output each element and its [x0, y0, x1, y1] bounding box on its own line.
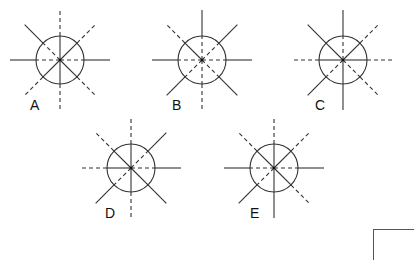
- ray-ne-outer-solid: [219, 25, 237, 43]
- center-dot: [342, 59, 345, 62]
- ray-nw-outer-dashed: [96, 133, 114, 151]
- figure-label: C: [315, 97, 325, 113]
- ray-sw-inner-solid: [43, 60, 60, 77]
- center-dot: [201, 59, 204, 62]
- ray-nw-outer-dashed: [167, 25, 185, 43]
- ray-nw-inner-solid: [185, 43, 202, 60]
- figure-label: A: [30, 97, 40, 113]
- figure-b: B: [152, 10, 252, 113]
- answer-box-corner: [373, 229, 414, 260]
- ray-ne-outer-dashed: [291, 133, 309, 151]
- ray-nw-inner-dashed: [43, 43, 60, 60]
- ray-ne-inner-solid: [274, 151, 291, 168]
- ray-se-outer-solid: [219, 77, 237, 95]
- ray-ne-outer-solid: [148, 133, 166, 151]
- ray-sw-inner-dashed: [257, 168, 274, 185]
- ray-ne-inner-solid: [60, 43, 77, 60]
- figure-a: A: [10, 10, 110, 113]
- ray-se-outer-solid: [148, 185, 166, 203]
- ray-ne-inner-solid: [343, 43, 360, 60]
- figure-label: E: [250, 205, 259, 221]
- ray-sw-inner-dashed: [185, 60, 202, 77]
- center-dot: [59, 59, 62, 62]
- center-dot: [130, 167, 133, 170]
- ray-se-inner-dashed: [202, 60, 219, 77]
- center-dot: [273, 167, 276, 170]
- ray-se-inner-solid: [274, 168, 291, 185]
- ray-ne-inner-dashed: [202, 43, 219, 60]
- ray-ne-outer-dashed: [360, 25, 378, 43]
- figure-c: C: [293, 10, 393, 113]
- ray-se-outer-dashed: [77, 77, 95, 95]
- ray-nw-inner-solid: [114, 151, 131, 168]
- ray-sw-outer-solid: [167, 77, 185, 95]
- ray-nw-inner-solid: [326, 43, 343, 60]
- figure-label: B: [172, 97, 181, 113]
- ray-se-inner-solid: [131, 168, 148, 185]
- figure-d: D: [81, 118, 181, 221]
- ray-nw-outer-dashed: [239, 133, 257, 151]
- ray-sw-outer-solid: [308, 77, 326, 95]
- figures-group: ABCDE: [10, 10, 393, 221]
- figure-label: D: [105, 205, 115, 221]
- ray-sw-inner-dashed: [114, 168, 131, 185]
- ray-ne-outer-dashed: [77, 25, 95, 43]
- ray-se-outer-dashed: [291, 185, 309, 203]
- ray-sw-outer-solid: [239, 185, 257, 203]
- ray-ne-inner-dashed: [131, 151, 148, 168]
- ray-se-inner-dashed: [343, 60, 360, 77]
- ray-sw-inner-dashed: [326, 60, 343, 77]
- ray-nw-outer-solid: [25, 25, 43, 43]
- ray-nw-inner-solid: [257, 151, 274, 168]
- figure-e: E: [224, 118, 324, 221]
- ray-nw-outer-solid: [308, 25, 326, 43]
- ray-sw-outer-solid: [96, 185, 114, 203]
- ray-sw-outer-dashed: [25, 77, 43, 95]
- ray-se-outer-dashed: [360, 77, 378, 95]
- ray-se-inner-solid: [60, 60, 77, 77]
